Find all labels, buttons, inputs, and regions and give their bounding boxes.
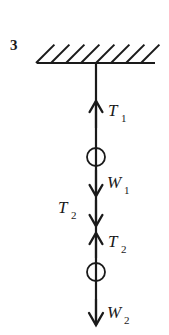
force-symbol-W1: W bbox=[107, 173, 123, 192]
force-subscript-T2_down: 2 bbox=[71, 209, 77, 221]
ceiling-hatch-marks bbox=[36, 45, 159, 63]
force-symbol-T1: T bbox=[108, 101, 119, 120]
hatch-stroke bbox=[66, 45, 84, 63]
force-symbol-T2_up: T bbox=[108, 232, 119, 251]
weight-W2: W2 bbox=[89, 299, 129, 326]
force-subscript-W2: 2 bbox=[124, 314, 130, 326]
hatch-stroke bbox=[96, 45, 114, 63]
hatch-stroke bbox=[111, 45, 129, 63]
diagram-canvas: 3 T1W1T2T2W2 bbox=[0, 0, 169, 335]
weight-W1: W1 bbox=[90, 170, 130, 196]
hatch-stroke bbox=[126, 45, 144, 63]
hatch-stroke bbox=[51, 45, 69, 63]
hatch-stroke bbox=[81, 45, 99, 63]
tension-T1: T1 bbox=[90, 101, 127, 128]
tension-T2-on-lower-mass: T2 bbox=[90, 232, 127, 258]
tension-T2-on-upper-mass: T2 bbox=[58, 198, 102, 226]
force-subscript-W1: 1 bbox=[124, 184, 130, 196]
force-symbol-W2: W bbox=[107, 303, 123, 322]
hatch-stroke bbox=[141, 45, 159, 63]
force-subscript-T2_up: 2 bbox=[121, 243, 127, 255]
force-subscript-T1: 1 bbox=[121, 112, 127, 124]
force-symbol-T2_down: T bbox=[58, 198, 69, 217]
free-body-diagram-figure: 3 T1W1T2T2W2 bbox=[0, 0, 169, 335]
figure-number-label: 3 bbox=[10, 37, 18, 53]
hatch-stroke bbox=[36, 45, 54, 63]
force-vectors-group: T1W1T2T2W2 bbox=[58, 101, 130, 326]
